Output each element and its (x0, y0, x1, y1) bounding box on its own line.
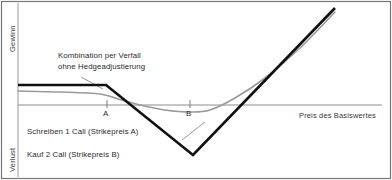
y-axis-label-loss: Verlust (8, 148, 17, 172)
chart-annotation: Kombination per Verfall ohne Hedgeadjust… (58, 51, 145, 72)
y-axis-label-gain: Gewinn (8, 25, 17, 52)
tick-label-b: B (186, 109, 191, 118)
tick-label-a: A (103, 109, 108, 118)
annotation-line-2: ohne Hedgeadjustierung (58, 62, 145, 73)
option-payoff-chart: Gewinn Verlust Preis des Basiswertes A B… (0, 0, 392, 180)
legend-entry-write-1-call: Schreiben 1 Call (Strikepreis A) (27, 127, 139, 136)
legend-entry-buy-2-call: Kauf 2 Call (Strikepreis B) (27, 150, 119, 159)
x-axis-label: Preis des Basiswertes (299, 111, 376, 120)
annotation-line-1: Kombination per Verfall (58, 51, 145, 62)
